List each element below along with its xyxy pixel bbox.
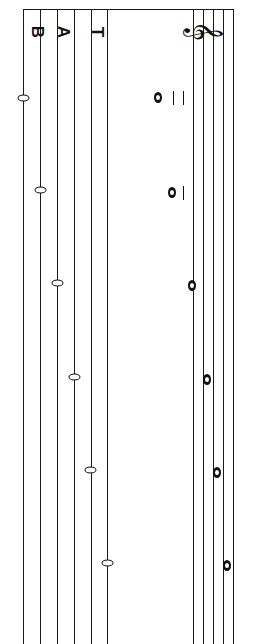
staff-line-3 (213, 9, 214, 644)
staff-line-5 (233, 9, 234, 644)
tab-label-a: A (55, 24, 71, 40)
staff-line-1 (193, 9, 194, 644)
staff-line-2 (203, 9, 204, 644)
tab-fret-0-string-5 (35, 187, 47, 194)
whole-note (154, 92, 162, 103)
treble-clef-icon: 𝄞 (188, 21, 222, 41)
tab-label-t: T (89, 24, 105, 40)
tab-fret-0-string-4 (52, 280, 64, 287)
whole-note (168, 187, 176, 198)
tab-fret-0-string-1 (102, 560, 114, 567)
ledger-line (183, 91, 184, 105)
ledger-line (183, 186, 184, 200)
tab-line-5 (40, 9, 41, 644)
whole-note (203, 374, 211, 385)
tab-line-6 (23, 9, 24, 644)
whole-note (223, 560, 231, 571)
tab-line-4 (57, 9, 58, 644)
ledger-line (173, 91, 174, 105)
tab-fret-0-string-2 (85, 467, 97, 474)
whole-note (213, 467, 221, 478)
whole-note (188, 280, 196, 291)
tab-fret-0-string-3 (69, 374, 81, 381)
tab-line-3 (74, 9, 75, 644)
tab-line-1 (107, 9, 108, 644)
tab-line-2 (91, 9, 92, 644)
tab-fret-0-string-6 (18, 95, 30, 102)
tab-label-b: B (29, 24, 45, 40)
staff-line-4 (223, 9, 224, 644)
